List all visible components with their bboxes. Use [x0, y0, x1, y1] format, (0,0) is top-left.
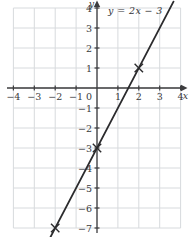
y-tick-label: −5 [78, 183, 92, 194]
equation-label: y = 2x − 3 [108, 5, 163, 16]
x-tick-label: −4 [6, 91, 20, 102]
x-axis-label: x [183, 90, 189, 101]
x-tick-label: −3 [27, 91, 41, 102]
y-tick-label: −3 [78, 143, 92, 154]
x-tick-label: 3 [157, 91, 163, 102]
y-tick-label: 2 [86, 43, 92, 54]
y-tick-label: 1 [86, 63, 92, 74]
y-axis-label: y [88, 0, 95, 9]
y-axis-arrow [94, 1, 100, 8]
y-tick-label: −6 [78, 203, 92, 214]
x-tick-label: 1 [115, 91, 121, 102]
graph-svg: −4−3−2−112344321−1−2−3−4−5−6−70xy [0, 0, 189, 237]
origin-label: 0 [86, 91, 92, 102]
y-tick-label: 3 [86, 23, 92, 34]
y-tick-label: −2 [78, 123, 92, 134]
coordinate-plane-figure: −4−3−2−112344321−1−2−3−4−5−6−70xy y = 2x… [0, 0, 189, 237]
x-tick-label: −2 [48, 91, 62, 102]
x-tick-label: −1 [69, 91, 83, 102]
plotted-line [50, 2, 173, 237]
x-tick-label: 2 [136, 91, 142, 102]
y-tick-label: −1 [78, 103, 92, 114]
y-tick-label: −7 [78, 223, 92, 234]
